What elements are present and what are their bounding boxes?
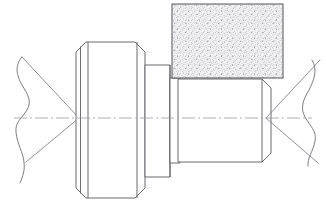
large-flange-cylinder [76, 42, 145, 198]
middle-step-shaft [145, 65, 170, 177]
technical-drawing-canvas: Cylindrical Grinding Operation Schematic… [0, 0, 326, 207]
left-break-line [16, 57, 29, 183]
right-break-line [302, 60, 315, 166]
engineering-drawing [0, 0, 326, 207]
ground-cylinder [178, 79, 271, 162]
left-cone-lower-edge [26, 118, 79, 162]
left-cone-upper-edge [22, 57, 79, 118]
flange-outline [76, 42, 145, 198]
left-center-cone [16, 57, 79, 183]
grinding-wheel-grain-overlay [172, 4, 283, 78]
grinding-wheel [172, 4, 283, 78]
middle-step-outline [145, 65, 170, 177]
ground-cylinder-outline [178, 79, 271, 162]
